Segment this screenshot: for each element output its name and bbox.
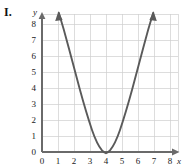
- grid-vertical-lines: [42, 14, 178, 152]
- grid-horizontal-lines: [42, 14, 178, 152]
- y-tick-label: 1: [32, 131, 37, 141]
- x-axis-tick-labels: 0 1 2 3 4 5 6 7 8: [40, 156, 173, 166]
- x-tick-label: 8: [168, 156, 173, 166]
- y-tick-label: 6: [32, 51, 37, 61]
- x-tick-label: 3: [88, 156, 93, 166]
- figure-container: I.: [0, 0, 186, 168]
- y-tick-label: 5: [32, 67, 37, 77]
- y-tick-label: 8: [32, 19, 37, 29]
- y-axis: [39, 12, 46, 152]
- curve-right-arrowhead: [149, 11, 156, 21]
- parabola-graph: 0 1 2 3 4 5 6 7 8 0 1 2 3 4 5 6 7 8: [0, 0, 186, 168]
- x-axis-arrowhead: [172, 149, 180, 156]
- curve-left-arrowhead: [55, 11, 62, 21]
- y-tick-label: 0: [32, 147, 37, 157]
- x-tick-label: 6: [136, 156, 141, 166]
- x-tick-label: 7: [152, 156, 157, 166]
- y-tick-label: 4: [32, 83, 37, 93]
- x-tick-label: 2: [72, 156, 77, 166]
- x-axis-label: x: [176, 156, 181, 166]
- x-tick-label: 0: [40, 156, 45, 166]
- y-tick-label: 7: [32, 35, 37, 45]
- y-axis-tick-labels: 0 1 2 3 4 5 6 7 8: [32, 19, 37, 157]
- plot-area: 0 1 2 3 4 5 6 7 8 0 1 2 3 4 5 6 7 8: [0, 0, 186, 168]
- y-tick-label: 2: [32, 115, 37, 125]
- x-tick-label: 4: [104, 156, 109, 166]
- x-tick-label: 1: [56, 156, 61, 166]
- y-axis-arrowhead: [39, 12, 46, 19]
- y-axis-label: y: [32, 7, 37, 17]
- y-tick-label: 3: [32, 99, 37, 109]
- x-tick-label: 5: [120, 156, 125, 166]
